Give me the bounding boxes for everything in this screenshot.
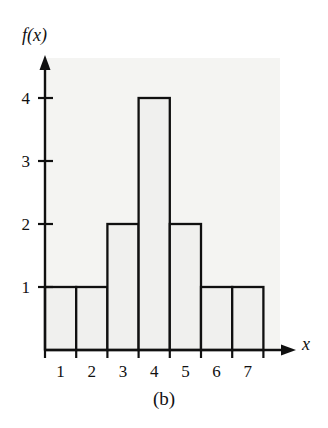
y-tick-label-4: 4 (12, 90, 30, 107)
x-axis-title: x (302, 335, 310, 353)
x-tick-label-1: 1 (48, 363, 74, 380)
bar-2 (76, 287, 107, 350)
y-tick-label-1: 1 (12, 279, 30, 296)
bar-6 (201, 287, 232, 350)
bar-series (45, 98, 263, 350)
y-axis-arrow-icon (40, 55, 51, 70)
figure-caption: (b) (0, 389, 328, 408)
bar-1 (45, 287, 76, 350)
bar-7 (232, 287, 263, 350)
y-tick-label-2: 2 (12, 216, 30, 233)
y-axis-title: f(x) (22, 26, 47, 44)
bar-4 (139, 98, 170, 350)
bar-3 (107, 224, 138, 350)
x-tick-label-6: 6 (204, 363, 230, 380)
x-axis-arrow-icon (281, 345, 296, 356)
x-tick-label-3: 3 (110, 363, 136, 380)
x-tick-label-2: 2 (79, 363, 105, 380)
figure-panel-b: 4 3 2 1 1 2 3 4 5 6 7 f(x) x (b) (0, 0, 328, 428)
x-axis-ticks (45, 350, 263, 358)
bar-5 (170, 224, 201, 350)
x-tick-label-4: 4 (141, 363, 167, 380)
y-tick-label-3: 3 (12, 153, 30, 170)
x-tick-label-5: 5 (172, 363, 198, 380)
x-tick-label-7: 7 (235, 363, 261, 380)
